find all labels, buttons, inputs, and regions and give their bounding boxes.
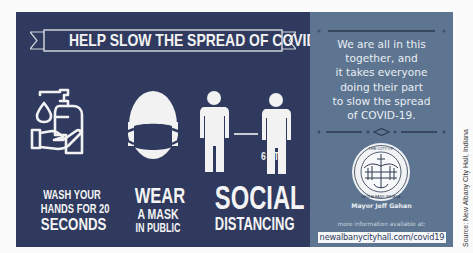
distance-label: 6 FT <box>258 150 282 162</box>
more-info-label: more information available at: <box>310 221 453 227</box>
face-mask-icon <box>122 89 184 165</box>
caption-social-distancing: SOCIAL DISTANCING <box>200 182 306 234</box>
caption-wash-hands: WASH YOUR HANDS FOR 20 SECONDS <box>32 188 112 234</box>
caption-wear-mask: WEAR A MASK IN PUBLIC <box>127 185 189 235</box>
hand-sanitizer-icon <box>30 85 102 173</box>
title-banner: HELP SLOW THE SPREAD OF COVID-19 <box>30 29 296 52</box>
source-credit: Source: New Albany City Hall, Indiana <box>462 137 469 247</box>
ornament-divider-icon <box>316 128 447 136</box>
ornament-divider-icon <box>316 27 447 35</box>
city-seal-icon: THE CITY OF NEW ALBANY, INDIANA <box>350 142 412 202</box>
message-text: We are all in this together, and it take… <box>314 37 449 122</box>
website-link[interactable]: newalbanycityhall.com/covid19 <box>318 232 446 243</box>
banner-title: HELP SLOW THE SPREAD OF COVID-19 <box>69 30 259 51</box>
social-distance-icon <box>200 90 300 176</box>
mayor-name: Mayor Jeff Gahan <box>310 202 453 209</box>
right-panel: We are all in this together, and it take… <box>310 12 453 247</box>
svg-text:THE CITY OF: THE CITY OF <box>369 146 394 151</box>
svg-text:NEW ALBANY, INDIANA: NEW ALBANY, INDIANA <box>362 195 401 199</box>
left-panel: HELP SLOW THE SPREAD OF COVID-19 <box>16 12 310 247</box>
